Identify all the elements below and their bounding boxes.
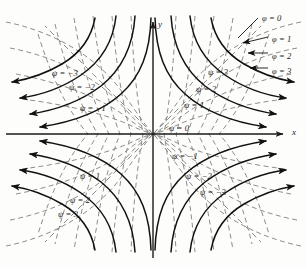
y-axis-label: y bbox=[158, 20, 162, 29]
streamline-label: ψ = −1 bbox=[172, 152, 198, 161]
asymptote-ray bbox=[45, 26, 153, 134]
equipotential-label: φ = 3 bbox=[272, 67, 291, 76]
streamline-label: ψ = 2 bbox=[70, 196, 90, 205]
x-axis-label: x bbox=[292, 128, 296, 137]
equipotential-label: φ = 2 bbox=[272, 52, 291, 61]
streamline-label: ψ = 1 bbox=[80, 172, 100, 181]
streamline-label: ψ = 3 bbox=[58, 210, 78, 219]
streamline-label: ψ = 3 bbox=[208, 68, 228, 77]
streamline-label: ψ = −2 bbox=[186, 172, 212, 181]
streamline-label: ψ = −3 bbox=[52, 69, 78, 78]
equipotential-label: φ = 0 bbox=[262, 14, 281, 23]
streamline-label: ψ = 0 bbox=[169, 124, 189, 133]
streamline-label: ψ = −3 bbox=[200, 188, 226, 197]
streamline-label: ψ = 2 bbox=[196, 85, 216, 94]
streamline-label: ψ = −2 bbox=[69, 83, 95, 92]
equipotential-curve bbox=[16, 134, 153, 194]
asymptote-ray bbox=[45, 134, 153, 242]
equipotential-label: φ = 1 bbox=[272, 35, 291, 44]
streamline bbox=[40, 141, 151, 250]
flow-net-figure: xyψ = −3ψ = −2ψ = −1ψ = 3ψ = 2ψ = 1ψ = 0… bbox=[0, 0, 307, 268]
equipotential-curve bbox=[153, 134, 291, 194]
flow-net-plot bbox=[0, 0, 307, 268]
streamline-label: ψ = 1 bbox=[184, 101, 204, 110]
streamline bbox=[30, 16, 135, 114]
phi-leader bbox=[238, 18, 258, 38]
streamline-label: ψ = −1 bbox=[80, 104, 106, 113]
equipotential-curve bbox=[153, 134, 297, 220]
